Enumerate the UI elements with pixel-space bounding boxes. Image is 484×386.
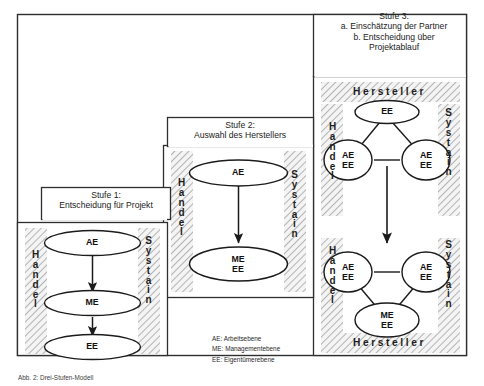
stage-3-bottom-node-aeee-left-label: AE EE	[342, 262, 354, 283]
legend-item-ee: EE: Eigentümerebene	[212, 355, 280, 365]
stage-3-top-band-label: Hersteller	[353, 86, 426, 97]
stage-1-title-line-1: Stufe 1:	[44, 190, 168, 200]
figure-caption: Abb. 2: Drei-Stufen-Modell	[18, 374, 93, 381]
stage-1-left-band-label: Handel	[30, 250, 41, 309]
stage-3-bottom-band-label: Hersteller	[353, 337, 426, 348]
stage-1-node-me-label: ME	[85, 298, 98, 308]
stage-3-title-line-2: a. Einschätzung der Partner	[318, 21, 470, 31]
stage-3-title-line-4: Projektablauf	[318, 42, 470, 52]
stage-2-node-meee-label: ME EE	[231, 254, 244, 275]
stage-3-left-band-label-bottom: Handel	[327, 246, 338, 305]
abbreviation-legend: AE: Arbeitsebene ME: Managementebene EE:…	[212, 334, 280, 365]
stage-2-right-band-label: Systain	[289, 170, 300, 239]
legend-item-ae: AE: Arbeitsebene	[212, 334, 280, 344]
stage-2-title-line-1: Stufe 2:	[170, 120, 310, 130]
stage-3-title-line-1: Stufe 3:	[318, 11, 470, 21]
stage-3-title: Stufe 3: a. Einschätzung der Partner b. …	[318, 11, 470, 53]
figure-canvas: Stufe 1: Entscheidung für Projekt Stufe …	[0, 0, 484, 386]
stage-2-title-line-2: Auswahl des Herstellers	[170, 130, 310, 140]
stage-3-left-band-label-top: Handel	[327, 122, 338, 181]
stage-1-node-ae-label: AE	[86, 238, 98, 248]
stage-3-top-node-ee-label: EE	[381, 107, 393, 117]
stage-1-right-band-label: Systain	[143, 236, 154, 305]
stage-3-right-band-label-bottom: Systain	[443, 240, 454, 309]
stage-1-title-line-2: Entscheidung für Projekt	[44, 200, 168, 210]
stage-3-right-band-label-top: Systain	[443, 108, 454, 177]
legend-item-me: ME: Managementebene	[212, 344, 280, 354]
stage-3-bottom-node-meee-label: ME EE	[380, 310, 393, 331]
stage-2-title: Stufe 2: Auswahl des Herstellers	[170, 120, 310, 141]
stage-1-node-ee-label: EE	[86, 342, 98, 352]
stage-3-title-line-3: b. Entscheidung über	[318, 32, 470, 42]
stage-3-top-node-aeee-right-label: AE EE	[420, 150, 432, 171]
stage-3-top-node-aeee-left-label: AE EE	[342, 150, 354, 171]
stage-3-bottom-node-aeee-right-label: AE EE	[420, 262, 432, 283]
stage-2-node-ae-label: AE	[232, 168, 244, 178]
stage-2-left-band-label: Handel	[176, 178, 187, 237]
stage-1-title: Stufe 1: Entscheidung für Projekt	[44, 190, 168, 211]
